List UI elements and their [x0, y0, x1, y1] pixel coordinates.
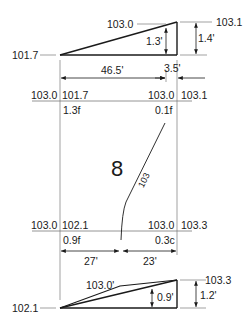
bottom-rise-inner: 0.9': [157, 292, 174, 303]
bottom-section-leaders: [40, 280, 206, 308]
top-section-dims: [61, 23, 205, 78]
top-right-elevation: 103.1: [216, 17, 242, 28]
plan-top-existing-left: 103.0: [31, 90, 57, 101]
plan-dim-right: 23': [143, 256, 157, 267]
top-mid-elevation: 103.0: [107, 19, 133, 30]
plan-dim-left: 27': [84, 256, 98, 267]
bottom-mid-elevation: 103.0': [86, 280, 114, 291]
plan-top-cut-left: 1.3f: [63, 105, 81, 116]
plan-top-proposed-right: 103.1: [181, 90, 207, 101]
bottom-rise-outer: 1.2': [200, 290, 217, 301]
top-run-main: 46.5': [101, 65, 123, 76]
top-run-short: 3.5': [164, 63, 181, 74]
plan-bottom-cut-right: 0.3c: [155, 235, 175, 246]
lot-number: 8: [111, 158, 123, 180]
plan-bottom-existing-right: 103.0: [148, 220, 174, 231]
top-section-leaders: [40, 22, 212, 300]
top-left-elevation: 101.7: [12, 50, 38, 61]
top-rise-outer: 1.4': [198, 33, 215, 44]
plan-top-existing-right: 103.0: [148, 90, 174, 101]
plan-bottom-proposed-right: 103.3: [181, 220, 207, 231]
plan-top-cut-right: 0.1f: [155, 105, 173, 116]
plan-top-proposed-left: 101.7: [62, 90, 88, 101]
plan-bottom-proposed-left: 102.1: [62, 220, 88, 231]
top-rise-inner: 1.3': [146, 36, 163, 47]
bottom-right-elevation: 103.3: [205, 275, 231, 286]
plan-bottom-existing-left: 103.0: [31, 220, 57, 231]
plan-bottom-cut-left: 0.9f: [63, 235, 81, 246]
bottom-left-elevation: 102.1: [12, 303, 38, 314]
